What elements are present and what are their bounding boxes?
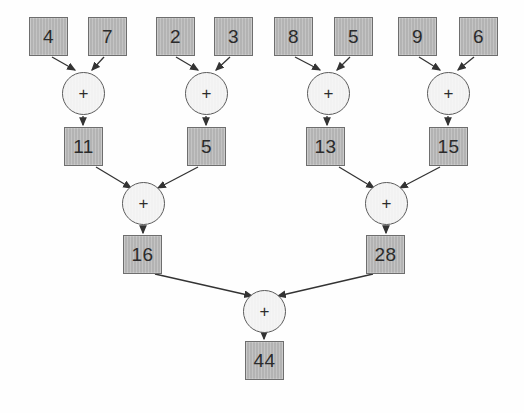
value-node-in3[interactable]: 2 xyxy=(156,17,195,56)
operator-label: + xyxy=(79,85,89,102)
value-label: 28 xyxy=(374,245,396,264)
edge-in5-to-add3 xyxy=(295,57,320,70)
value-node-in7[interactable]: 9 xyxy=(398,17,437,56)
adder-node-add5[interactable]: + xyxy=(122,182,165,225)
value-label: 2 xyxy=(170,27,181,46)
value-label: 11 xyxy=(73,137,94,156)
adder-node-add7[interactable]: + xyxy=(243,290,286,333)
adder-node-add4[interactable]: + xyxy=(427,72,470,115)
value-node-sum2[interactable]: 5 xyxy=(187,127,226,166)
value-label: 7 xyxy=(102,27,113,46)
value-node-in1[interactable]: 4 xyxy=(29,17,68,56)
value-node-in5[interactable]: 8 xyxy=(274,17,313,56)
edge-in6-to-add3 xyxy=(337,57,350,70)
value-label: 15 xyxy=(437,137,459,156)
value-node-in8[interactable]: 6 xyxy=(459,17,498,56)
value-label: 44 xyxy=(253,351,275,370)
value-label: 5 xyxy=(348,27,359,46)
edge-in2-to-add1 xyxy=(92,57,104,70)
value-node-sum4[interactable]: 15 xyxy=(429,127,468,166)
value-node-sum1[interactable]: 11 xyxy=(64,127,103,166)
operator-label: + xyxy=(202,85,212,102)
value-label: 4 xyxy=(43,27,54,46)
edge-sum4-to-add6 xyxy=(400,167,440,188)
edge-sum6-to-add7 xyxy=(278,274,373,296)
value-label: 8 xyxy=(288,27,299,46)
adder-tree-diagram: 47238596++++1151315++1628+44 xyxy=(0,0,524,413)
edge-sum1-to-add5 xyxy=(96,167,131,188)
edge-in1-to-add1 xyxy=(52,57,75,70)
value-label: 3 xyxy=(228,27,239,46)
adder-node-add1[interactable]: + xyxy=(62,72,105,115)
value-node-in2[interactable]: 7 xyxy=(88,17,127,56)
edge-sum3-to-add6 xyxy=(339,167,374,188)
operator-label: + xyxy=(444,85,454,102)
value-node-sum6[interactable]: 28 xyxy=(366,235,405,274)
value-label: 6 xyxy=(473,27,484,46)
value-node-total[interactable]: 44 xyxy=(245,341,284,380)
value-node-in6[interactable]: 5 xyxy=(334,17,373,56)
value-label: 16 xyxy=(131,245,153,264)
value-label: 9 xyxy=(412,27,423,46)
value-label: 13 xyxy=(314,137,336,156)
operator-label: + xyxy=(260,303,270,320)
edge-sum2-to-add5 xyxy=(158,167,198,188)
value-node-sum5[interactable]: 16 xyxy=(123,235,162,274)
edge-in8-to-add4 xyxy=(458,57,474,70)
adder-node-add3[interactable]: + xyxy=(307,72,350,115)
value-node-in4[interactable]: 3 xyxy=(214,17,253,56)
edge-in7-to-add4 xyxy=(419,57,440,70)
operator-label: + xyxy=(324,85,334,102)
adder-node-add2[interactable]: + xyxy=(185,72,228,115)
edge-sum5-to-add7 xyxy=(155,274,252,296)
operator-label: + xyxy=(382,195,392,212)
adder-node-add6[interactable]: + xyxy=(365,182,408,225)
value-node-sum3[interactable]: 13 xyxy=(306,127,345,166)
operator-label: + xyxy=(139,195,149,212)
edge-in3-to-add2 xyxy=(176,57,198,70)
edge-in4-to-add2 xyxy=(216,57,230,70)
value-label: 5 xyxy=(201,137,212,156)
